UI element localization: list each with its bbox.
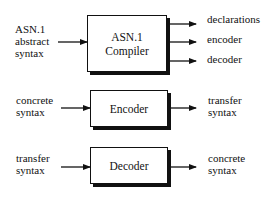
- decoder-output-label: concrete syntax: [208, 152, 245, 176]
- box-label-line: ASN.1: [105, 30, 148, 44]
- label-line: syntax: [15, 47, 49, 59]
- encoder-output-label: transfer syntax: [208, 94, 242, 118]
- compiler-input-label: ASN.1 abstract syntax: [15, 23, 49, 59]
- box-label-line: Compiler: [105, 44, 148, 58]
- label-line: ASN.1: [15, 23, 49, 35]
- encoder-box-label: Encoder: [110, 102, 148, 116]
- label-line: syntax: [16, 106, 53, 118]
- label-line: concrete: [16, 94, 53, 106]
- label-line: transfer: [16, 152, 50, 164]
- label-line: syntax: [208, 164, 245, 176]
- label-line: transfer: [208, 94, 242, 106]
- asn1-compiler-box: ASN.1 Compiler: [87, 15, 167, 72]
- encoder-input-label: concrete syntax: [16, 94, 53, 118]
- output-encoder-label: encoder: [207, 33, 242, 45]
- encoder-box: Encoder: [90, 90, 168, 127]
- decoder-box: Decoder: [90, 147, 168, 184]
- decoder-box-label: Decoder: [110, 159, 149, 173]
- output-decoder-label: decoder: [207, 53, 242, 65]
- decoder-input-label: transfer syntax: [16, 152, 50, 176]
- label-line: syntax: [208, 106, 242, 118]
- label-line: abstract: [15, 35, 49, 47]
- output-declarations-label: declarations: [207, 13, 260, 25]
- label-line: syntax: [16, 164, 50, 176]
- label-line: concrete: [208, 152, 245, 164]
